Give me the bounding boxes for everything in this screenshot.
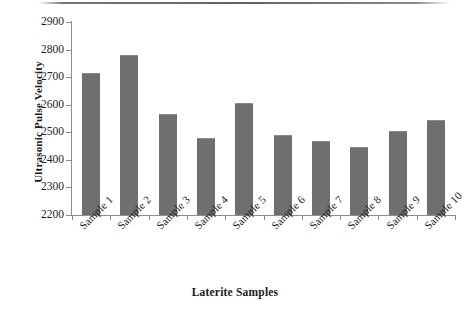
x-axis-tick-label: Sample 10 [422, 189, 464, 231]
x-axis-tick-labels: Sample 1Sample 2Sample 3Sample 4Sample 5… [0, 0, 470, 309]
bar-chart: Ultrasonic Pulse Velocity 22002300240025… [0, 0, 470, 309]
x-axis-tick-label: Sample 6 [269, 193, 307, 231]
x-axis-tick-label: Sample 7 [307, 193, 345, 231]
x-axis-tick-label: Sample 9 [384, 193, 422, 231]
x-axis-tick-label: Sample 5 [230, 193, 268, 231]
x-axis-tick-label: Sample 1 [77, 193, 115, 231]
x-axis-tick-label: Sample 4 [192, 193, 230, 231]
x-axis-tick-label: Sample 2 [115, 193, 153, 231]
x-axis-tick-label: Sample 3 [154, 193, 192, 231]
x-axis-tick-label: Sample 8 [345, 193, 383, 231]
x-axis-title: Laterite Samples [0, 286, 470, 298]
